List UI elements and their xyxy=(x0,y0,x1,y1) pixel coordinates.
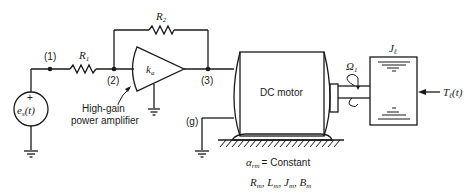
node-2-label: (2) xyxy=(107,75,119,86)
r2-label: R2 xyxy=(155,10,167,24)
load-inertia-box xyxy=(370,57,417,125)
load-torque-label: Tℓ(t) xyxy=(443,86,463,100)
amplifier-caption-line1: High-gain xyxy=(82,103,125,114)
ground-icon xyxy=(195,151,209,157)
motor-shaft xyxy=(338,86,370,98)
motor-parameters-label: Rm, Lm, Jm, Bm xyxy=(249,176,311,190)
source-polarity-plus: + xyxy=(27,92,33,103)
resistor-r2: R2 xyxy=(149,10,174,34)
node-1-label: (1) xyxy=(44,51,56,62)
r1-label: R1 xyxy=(78,49,89,63)
node-3-dot xyxy=(206,67,211,72)
amplifier: ka xyxy=(133,47,185,115)
source-label: es(t) xyxy=(17,104,35,118)
amplifier-gain-label: ka xyxy=(146,63,155,77)
dc-motor: DC motor xyxy=(232,52,338,140)
rotation-arrow-icon xyxy=(347,74,360,106)
motor-drive-schematic: + es(t) (1) R1 (2) R2 ka High-gain power… xyxy=(0,0,475,196)
speed-label: Ω1 xyxy=(346,60,357,74)
voltage-source: + es(t) xyxy=(14,69,48,150)
load-inertia-label: Jℓ xyxy=(389,42,397,56)
motor-label: DC motor xyxy=(260,87,303,98)
node-g-label: (g) xyxy=(186,116,198,127)
ground-icon xyxy=(24,151,38,157)
node-3-label: (3) xyxy=(201,75,213,86)
node-1-dot xyxy=(48,67,53,72)
alpha-constant-label: αrm= Constant xyxy=(246,156,310,170)
floor-hatching xyxy=(218,140,344,147)
load-torque-arrow-icon xyxy=(418,89,440,95)
amplifier-caption-line2: power amplifier xyxy=(71,115,139,126)
resistor-r1: R1 xyxy=(70,49,96,73)
